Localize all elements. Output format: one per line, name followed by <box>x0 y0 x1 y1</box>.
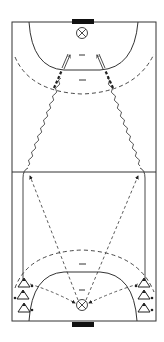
top-goal <box>72 19 94 24</box>
bottom-goal <box>72 322 94 327</box>
bottom-goal-area-line <box>29 272 137 321</box>
pass-line-left-long <box>30 176 78 300</box>
right-dribble-path <box>107 78 140 166</box>
right-run-path <box>140 168 145 280</box>
left-run-path <box>23 168 28 280</box>
left-dribble-path <box>28 78 61 166</box>
pass-line-right-long <box>86 176 138 300</box>
right-shot-arrow <box>97 54 113 88</box>
top-free-throw-line <box>15 54 154 94</box>
top-target-cross-circle-icon <box>77 28 88 39</box>
player-left-2-cone-triangle-icon <box>14 290 29 299</box>
player-right-3-cone-triangle-icon <box>138 303 153 312</box>
left-shot-arrow <box>54 54 70 88</box>
bottom-target-cross-circle-icon <box>77 300 88 311</box>
player-right-2-cone-triangle-icon <box>138 290 153 299</box>
pass-line-left-short <box>30 284 75 303</box>
top-goal-area-line <box>29 22 138 70</box>
player-left-1-cone-triangle-icon <box>18 278 33 287</box>
handball-court-diagram <box>0 0 164 342</box>
